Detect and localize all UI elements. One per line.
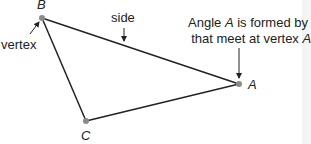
vertex-dot-C	[83, 118, 89, 124]
note-text: Angle	[188, 15, 225, 30]
note-text: is formed by sides	[234, 15, 311, 30]
angle-note-line1: Angle A is formed by sides	[188, 15, 311, 31]
side-CA	[86, 84, 239, 121]
note-var: A	[225, 15, 234, 30]
angle-note: Angle A is formed by sides that meet at …	[188, 15, 311, 47]
side-BC	[42, 18, 86, 121]
angle-note-line2: that meet at vertex A.	[188, 31, 311, 47]
vertex-dot-B	[39, 15, 45, 21]
vertex-dot-A	[236, 81, 242, 87]
vertex-label-C: C	[81, 128, 90, 143]
vertex-label-A: A	[248, 77, 257, 92]
note-var: A	[302, 31, 311, 46]
vertex-label-B: B	[37, 0, 46, 12]
side-label: side	[111, 10, 135, 25]
vertex-pointer-arrow	[30, 22, 39, 34]
vertex-label: vertex	[1, 37, 36, 52]
note-text: that meet at vertex	[191, 31, 302, 46]
